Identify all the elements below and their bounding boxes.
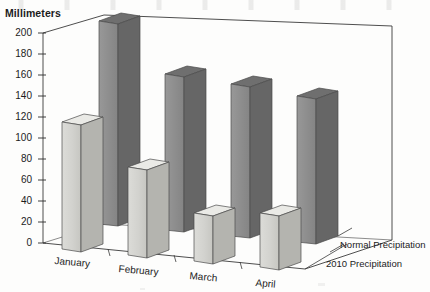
y-tick-0: 0 xyxy=(6,238,32,248)
y-tick-140: 140 xyxy=(6,91,32,101)
legend-item-normal-precipitation: Normal Precipitation xyxy=(340,240,426,250)
y-axis-ticks xyxy=(38,33,46,243)
y-tick-160: 160 xyxy=(6,70,32,80)
y-tick-20: 20 xyxy=(6,217,32,227)
legend-item-2010-precipitation: 2010 Precipitation xyxy=(326,259,402,269)
y-tick-120: 120 xyxy=(6,112,32,122)
y-tick-180: 180 xyxy=(6,49,32,59)
bar-normal-february xyxy=(165,66,206,232)
bar-2010-january xyxy=(62,114,103,252)
y-tick-200: 200 xyxy=(6,28,32,38)
y-tick-60: 60 xyxy=(6,175,32,185)
y-tick-80: 80 xyxy=(6,154,32,164)
y-tick-100: 100 xyxy=(6,133,32,143)
y-axis-title: Millimeters xyxy=(5,8,61,19)
precipitation-bar-chart: Millimeters 200 180 160 140 120 100 80 6… xyxy=(0,0,430,292)
bar-2010-march xyxy=(194,205,235,264)
bar-normal-april xyxy=(297,88,338,244)
bar-2010-february xyxy=(128,159,169,258)
bar-2010-april xyxy=(260,205,301,270)
y-tick-40: 40 xyxy=(6,196,32,206)
x-tick-april: April xyxy=(255,278,276,290)
